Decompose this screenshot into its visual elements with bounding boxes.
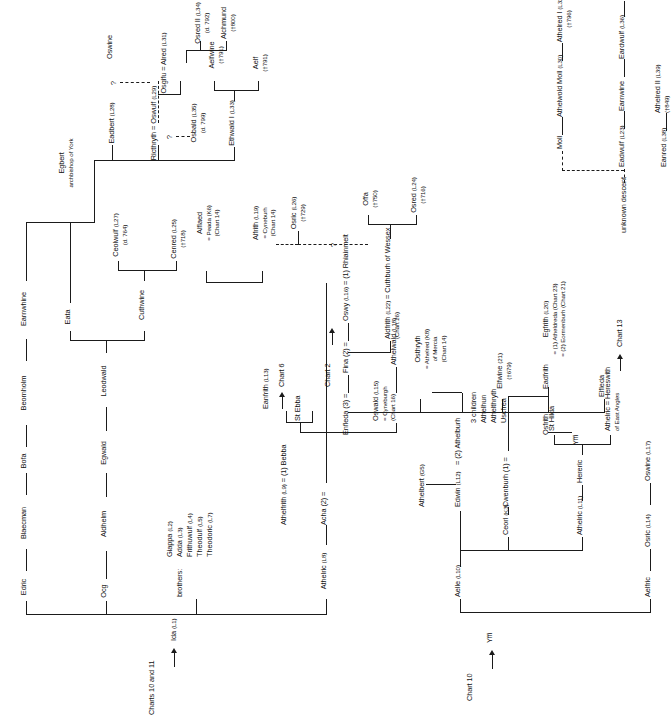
alchmund-connector <box>226 41 227 51</box>
node-aelfric: Aelfric <box>644 577 653 597</box>
node-alchmund: Alchmund(†800) <box>220 7 237 39</box>
aelfwine-connector <box>214 81 215 91</box>
node-eanred: Eanred (L38) <box>660 128 669 167</box>
node-hereswith: Athelric = Hereswithof East Angles <box>604 367 621 431</box>
node-aelle: Aelle (L10) <box>454 565 463 597</box>
athelric-l11-connector <box>582 537 583 551</box>
leodwald-children-spine <box>70 340 144 341</box>
line-ocg-aldhelm <box>106 551 107 579</box>
node-aldhelm: Aldhelm <box>100 511 109 537</box>
hereric-children-feed <box>582 445 583 455</box>
node-oswine: Oswine <box>106 35 115 59</box>
node-athelric-l8: Athelric (L8) <box>320 553 329 589</box>
eata-connector <box>70 331 71 341</box>
chart2-arrow-head <box>329 328 335 333</box>
node-osgifu-alred: Osgifu = Alred (L31) <box>160 32 169 93</box>
line-eata-egbert <box>70 223 71 303</box>
cwenburh-children-spine <box>508 396 548 397</box>
brothers-connector <box>196 599 197 615</box>
node-osred: Osred (L24)(†716) <box>410 177 427 213</box>
question-mark-offa: ? <box>330 243 339 247</box>
alfrith-alflaed-spine <box>206 282 262 283</box>
node-offa: Offa(†750) <box>362 190 379 207</box>
node-osric-l26: Osric (L26)(†729) <box>290 197 307 230</box>
line-enfleda-fina <box>348 375 349 393</box>
line-earnwine-eardwulf <box>624 59 625 77</box>
st-hilda-connector <box>554 435 555 445</box>
node-hereric: Hereric <box>576 460 585 483</box>
node-egbert: Egbertarchbishop of York <box>58 138 75 187</box>
dashed-osric <box>276 244 298 245</box>
node-eata: Eata <box>64 310 73 325</box>
node-earnwhine: Earnwhine <box>20 292 29 326</box>
line-fina-oswy <box>348 323 349 341</box>
line-ceorl-cwenburh <box>508 507 509 515</box>
node-st-hilda: St Hilda <box>548 406 557 431</box>
question-mark-osbald: ? <box>166 135 175 139</box>
egbert-to-eadbert-drop <box>66 222 94 223</box>
cuthwine-connector <box>144 331 145 341</box>
hereswith-connector <box>610 435 611 445</box>
node-eanfrith: Eanfrith (L13) <box>262 368 271 409</box>
dashed-unknown-to-moll <box>562 151 563 171</box>
dashed-oswulf-oswine <box>120 82 150 83</box>
node-osric-l14: Osric (L14) <box>644 514 653 547</box>
dashed-unknown-descent <box>562 170 624 171</box>
node-oswine-l17: Oswine (L17) <box>644 441 653 481</box>
node-cwenburh: Cwenburh (1) = <box>502 457 511 507</box>
link-chart13[interactable]: Chart 13 <box>616 319 625 347</box>
ethwald-connector <box>234 147 235 161</box>
link-chart2[interactable]: Chart 2 <box>324 363 333 387</box>
line-eadwulf-earnwine <box>624 111 625 129</box>
enfleda-lower-spine <box>518 412 604 413</box>
node-three-children-2: Athelhun <box>480 395 489 423</box>
entry-arrow-head <box>171 648 177 653</box>
cuthwine-children-spine <box>118 270 176 271</box>
node-aelf: Aelf(†791) <box>252 54 269 71</box>
node-edwin: Edwin (L12) <box>454 471 463 507</box>
node-cuthwine: Cuthwine <box>138 290 147 320</box>
line-osric-oswine <box>650 483 651 505</box>
node-oswald: Oswald (L15)= Cyneburgh(Chart 16) <box>372 381 398 421</box>
node-brother-theodulf: Theodulf (L5) <box>196 516 205 557</box>
node-athelfrith-bebba: Athelfrith (L9) = (1) Bebba <box>280 445 289 525</box>
chart2-arrow-stem <box>332 333 333 345</box>
chart-top-label: Charts 10 and 11 <box>148 660 157 715</box>
line-egwald-leodwald <box>106 407 107 431</box>
offa-connector <box>368 215 369 225</box>
eanfrith-connector <box>312 411 313 423</box>
eadbert-row-line <box>112 145 113 161</box>
hereric-children-spine <box>554 444 610 445</box>
node-fina: Fina (2) = <box>342 342 351 373</box>
node-brother-giappa: Giappa (L2) <box>166 521 175 557</box>
question-mark-oswine: ? <box>110 81 119 85</box>
entry-arrow-stem <box>174 653 175 667</box>
cenred-connector <box>176 261 177 271</box>
link-chart6[interactable]: Chart 6 <box>278 363 287 387</box>
oswulf-connector <box>158 145 159 161</box>
athelbert-drop <box>426 484 456 485</box>
aelfric-connector <box>650 599 651 613</box>
eadbert-drop <box>94 160 112 161</box>
dashed-unknown-to-eadwulf <box>624 169 625 183</box>
node-st-ebba: St Ebba <box>294 395 303 421</box>
line-beornholm-earnwhine <box>26 339 27 361</box>
line-aldhelm-egwald <box>106 473 107 497</box>
line-eanred-athelred2 <box>666 113 667 131</box>
node-athelwold-moll: Athelwold Moll (L30) <box>556 55 565 117</box>
edwin-connector <box>460 511 461 551</box>
node-ethwald1: Ethwald I (L33) <box>228 100 237 145</box>
osthryth-connector <box>420 399 421 413</box>
node-ceorl: Ceorl (K3) <box>502 505 511 535</box>
node-egfrith: Egfrith (L20)= (1) Atheldreda (Chart 23)… <box>542 281 568 357</box>
ceolwulf-connector <box>118 261 119 271</box>
yffi-spine <box>460 612 650 613</box>
node-eadwulf: Eadwulf (L23) <box>618 125 627 167</box>
chart6-arrow-head <box>279 392 285 397</box>
oswald-connector <box>396 423 397 433</box>
node-brother-theodoric: Theodoric (L7) <box>206 512 215 557</box>
node-athelred1: Athelred I (L32)(†796) <box>556 0 573 42</box>
cuthwine-children-connector <box>144 271 145 281</box>
node-enfleda: Enfleda (3) = <box>342 394 351 435</box>
